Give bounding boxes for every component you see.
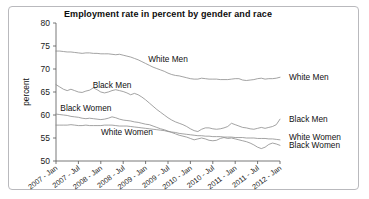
y-axis-label: percent (21, 77, 31, 105)
line-chart-plot: 50556065707580percent2007 - Jan2007 - Ju… (0, 0, 369, 199)
right-series-label: Black Men (289, 114, 328, 124)
inline-series-label: Black Men (93, 80, 132, 90)
inline-series-label: White Men (148, 54, 188, 64)
axis-spines (56, 23, 280, 161)
inline-series-label: White Women (101, 127, 153, 137)
y-tick-label: 70 (41, 64, 51, 74)
y-tick-label: 50 (41, 156, 51, 166)
data-series-group (56, 51, 280, 149)
y-tick-label: 60 (41, 110, 51, 120)
series-line-white-women (56, 125, 280, 140)
y-tick-label: 80 (41, 18, 51, 28)
right-series-label: White Men (289, 72, 329, 82)
inline-series-label: Black Women (60, 103, 111, 113)
y-tick-label: 65 (41, 87, 51, 97)
y-tick-label: 75 (41, 41, 51, 51)
y-tick-label: 55 (41, 133, 51, 143)
right-series-label: Black Women (289, 140, 340, 150)
chart-figure: Employment rate in percent by gender and… (0, 0, 369, 199)
